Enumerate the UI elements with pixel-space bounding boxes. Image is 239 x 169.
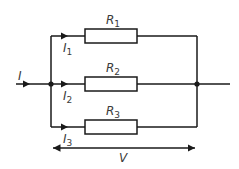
voltage-label: V: [119, 151, 128, 165]
resistor-r3: [85, 120, 137, 134]
branch-2: [51, 77, 197, 91]
i2-label: I2: [63, 89, 72, 105]
r1-label: R1: [106, 13, 120, 29]
branch-1: [51, 29, 197, 43]
input-current-label: I: [18, 69, 22, 83]
i3-label: I3: [63, 132, 72, 148]
resistor-r1: [85, 29, 137, 43]
resistor-r2: [85, 77, 137, 91]
right-junction-dot: [194, 81, 199, 86]
left-junction-dot: [48, 81, 53, 86]
i1-label: I1: [63, 41, 72, 57]
r2-label: R2: [106, 61, 120, 77]
parallel-circuit-diagram: I R1 R2 R3 I1 I2 I3 V: [0, 0, 239, 169]
r3-label: R3: [106, 104, 120, 120]
branch-3: [51, 120, 197, 134]
